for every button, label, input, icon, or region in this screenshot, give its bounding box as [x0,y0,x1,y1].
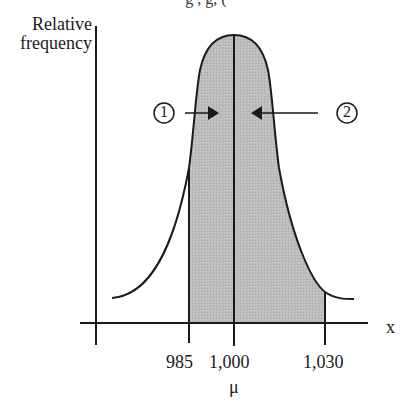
tick-label-1000: 1,000 [209,352,250,373]
tick-label-985: 985 [166,352,193,373]
annotation-label-2: 2 [342,103,352,121]
x-axis-label: x [386,317,395,338]
tick-label-1030: 1,030 [303,352,344,373]
normal-curve-diagram [0,0,412,414]
annotation-label-1: 1 [159,103,169,121]
mean-symbol: μ [229,377,239,398]
